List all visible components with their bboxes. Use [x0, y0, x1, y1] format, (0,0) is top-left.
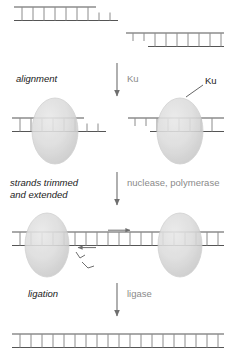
- enzyme-label-ligase: ligase: [127, 288, 152, 299]
- panel-ligated: [12, 334, 224, 348]
- step-alignment: alignment Ku: [16, 63, 139, 96]
- step-label-ligation: ligation: [28, 288, 58, 299]
- panel-trimmed-extended: [12, 213, 224, 277]
- dna-right-end-3prime-overhang: [126, 33, 224, 47]
- enzyme-label-ku: Ku: [127, 73, 139, 84]
- step-ligation: ligation ligase: [28, 283, 152, 316]
- base-pair-rungs-panel4: [20, 334, 218, 348]
- diagram-canvas: alignment Ku Ku: [0, 0, 230, 348]
- ku-callout-leader: [186, 85, 203, 97]
- step-label-trimming-line1: strands trimmed: [10, 177, 79, 188]
- ku-protein-left-panel3: [25, 213, 69, 277]
- nick-mark-lower: [82, 262, 94, 268]
- ku-protein-left: [32, 98, 78, 164]
- step-label-trimming-line2: and extended: [10, 189, 68, 200]
- dna-left-end-5prime-overhang: [14, 7, 118, 21]
- nick-mark-upper: [76, 252, 85, 258]
- panel-broken-ends: [14, 7, 224, 47]
- nhej-diagram: alignment Ku Ku: [0, 0, 230, 348]
- panel-ku-bound: Ku: [12, 75, 224, 164]
- ku-callout: Ku: [186, 75, 217, 97]
- enzyme-label-nuclease-polymerase: nuclease, polymerase: [127, 177, 219, 188]
- ku-protein-right-panel3: [158, 213, 202, 277]
- step-label-alignment: alignment: [16, 73, 58, 84]
- ku-callout-label: Ku: [205, 75, 217, 86]
- step-trimming: strands trimmed and extended nuclease, p…: [10, 172, 219, 205]
- ku-protein-right: [157, 98, 203, 164]
